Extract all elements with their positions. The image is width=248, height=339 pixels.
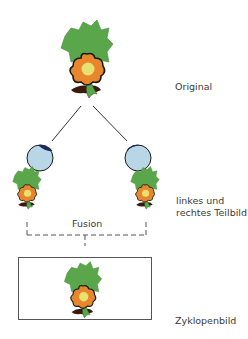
original-plant-icon	[61, 20, 113, 98]
partial-images-label-line1: linkes und	[176, 195, 248, 207]
binocular-fusion-diagram: Original linkes und rechtes Teilbild Fus…	[0, 0, 248, 339]
right-eye-icon	[125, 145, 151, 171]
right-partial-plant-icon	[131, 166, 160, 209]
partial-images-label: linkes und rechtes Teilbild	[176, 195, 248, 219]
partial-images-label-line2: rechtes Teilbild	[176, 207, 248, 219]
cyclopean-label: Zyklopenbild	[175, 315, 236, 327]
left-eye-icon	[27, 145, 53, 171]
right-ray-line	[93, 106, 127, 141]
fusion-label: Fusion	[72, 218, 102, 229]
left-partial-plant-icon	[13, 166, 42, 209]
left-ray-line	[52, 106, 81, 141]
original-label: Original	[175, 81, 212, 93]
diagram-canvas	[0, 0, 248, 339]
